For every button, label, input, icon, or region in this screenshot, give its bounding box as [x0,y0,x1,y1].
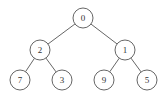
edge-n0-n2 [48,24,75,44]
node-label: 7 [18,75,23,85]
node-label: 9 [102,75,107,85]
edge-n1-n5 [131,58,141,72]
tree-node-1: 1 [115,40,135,60]
node-label: 2 [38,45,43,55]
nodes-layer: 0217395 [10,8,157,90]
edge-n2-n7 [26,58,35,71]
node-label: 5 [145,75,150,85]
edge-n1-n9 [110,58,120,72]
tree-node-0: 0 [73,8,93,28]
binary-tree-diagram: 0217395 [0,0,165,95]
tree-node-7: 7 [10,70,30,90]
node-label: 0 [81,13,86,23]
tree-node-5: 5 [137,70,157,90]
edge-n0-n1 [91,24,117,44]
tree-node-9: 9 [94,70,114,90]
edge-n2-n3 [46,58,56,72]
node-label: 3 [60,75,65,85]
tree-node-2: 2 [30,40,50,60]
node-label: 1 [123,45,128,55]
tree-node-3: 3 [52,70,72,90]
